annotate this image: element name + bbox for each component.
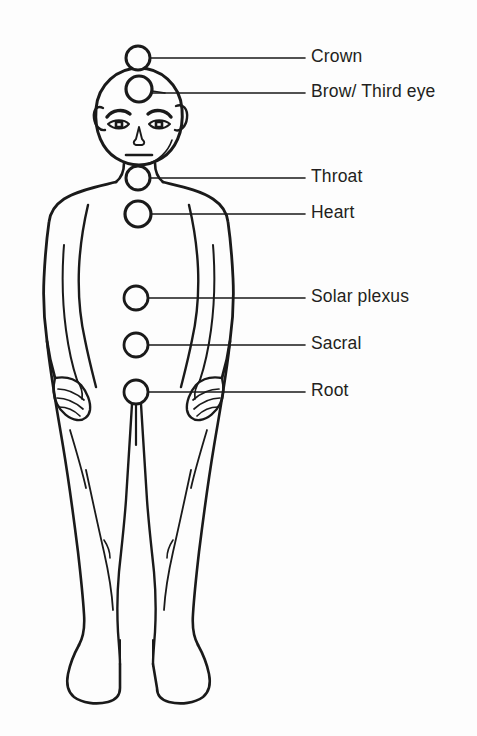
pupil-right — [156, 122, 162, 127]
thigh-contour-right — [191, 430, 207, 488]
chakra-label-throat: Throat — [311, 168, 362, 186]
leg-outer-right — [193, 341, 230, 645]
leader-lines — [148, 58, 305, 392]
arm-inner-left — [63, 245, 77, 380]
chakra-label-solar-plexus: Solar plexus — [311, 288, 409, 306]
leg-outer-left — [47, 341, 84, 645]
chakra-marker-solar-plexus — [124, 286, 148, 310]
chakra-label-sacral: Sacral — [311, 335, 362, 353]
neck-right — [155, 163, 163, 182]
chakra-label-brow-third-eye: Brow/ Third eye — [311, 83, 435, 101]
thigh-contour-left — [70, 430, 86, 488]
torso-side-left — [79, 205, 96, 387]
eyebrow-left — [107, 110, 130, 117]
chakra-marker-sacral — [124, 333, 148, 357]
chakra-marker-root — [124, 380, 148, 404]
leg-inner-left — [117, 404, 132, 664]
chakra-markers — [124, 46, 152, 404]
pupil-left — [116, 122, 122, 127]
chakra-label-crown: Crown — [311, 48, 362, 66]
neck-left — [116, 163, 124, 182]
chakra-marker-heart — [125, 201, 151, 227]
leg-inner-right — [141, 404, 156, 664]
chakra-marker-throat — [126, 166, 150, 190]
calf-contour-left — [86, 470, 113, 610]
arm-inner-right — [200, 245, 214, 380]
calf-contour-right — [164, 470, 191, 610]
chakra-marker-crown — [126, 46, 150, 70]
chakra-label-heart: Heart — [311, 204, 355, 222]
chakra-marker-brow — [126, 76, 152, 102]
foot-right — [153, 645, 210, 703]
foot-left — [67, 645, 120, 703]
chakra-diagram-canvas: Crown Brow/ Third eye Throat Heart Solar… — [0, 0, 477, 736]
torso-side-right — [181, 205, 198, 387]
chakra-label-root: Root — [311, 382, 349, 400]
eyebrow-right — [148, 110, 171, 117]
nose — [134, 127, 145, 145]
body-figure-svg — [0, 0, 477, 736]
